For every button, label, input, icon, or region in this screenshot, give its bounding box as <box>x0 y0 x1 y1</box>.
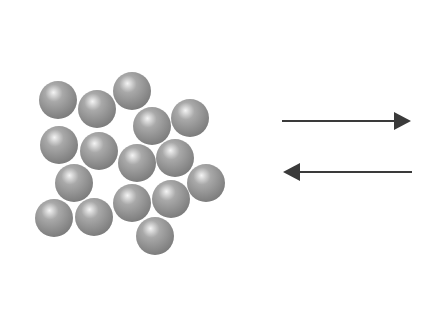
reverse-arrowhead-icon <box>283 163 300 181</box>
reverse-arrow <box>283 163 412 181</box>
particle-sphere <box>40 126 78 164</box>
particle-sphere <box>39 81 77 119</box>
particle-sphere <box>75 198 113 236</box>
particle-sphere <box>113 184 151 222</box>
particle-sphere <box>152 180 190 218</box>
particle-sphere <box>35 199 73 237</box>
particle-sphere <box>156 139 194 177</box>
particle-cluster <box>35 72 225 255</box>
diagram-canvas <box>0 0 434 317</box>
particle-sphere <box>113 72 151 110</box>
particle-sphere <box>187 164 225 202</box>
forward-arrowhead-icon <box>394 112 411 130</box>
particle-sphere <box>136 217 174 255</box>
diagram-svg <box>0 0 434 317</box>
particle-sphere <box>78 90 116 128</box>
particle-sphere <box>118 144 156 182</box>
particle-sphere <box>133 107 171 145</box>
particle-sphere <box>55 164 93 202</box>
equilibrium-arrows <box>282 112 412 181</box>
forward-arrow <box>282 112 411 130</box>
particle-sphere <box>171 99 209 137</box>
particle-sphere <box>80 132 118 170</box>
